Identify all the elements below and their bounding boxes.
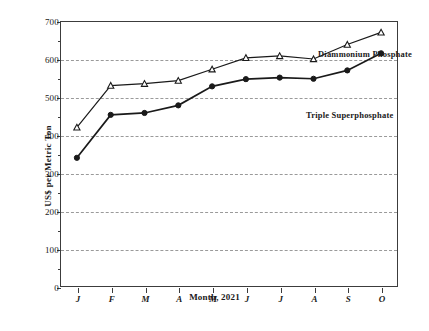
y-axis-minor-tick bbox=[58, 79, 61, 80]
series-label-diammonium-phosphate: Diammonium Phosphate bbox=[318, 49, 412, 59]
gridline bbox=[61, 212, 397, 213]
gridline bbox=[61, 60, 397, 61]
y-axis-minor-tick bbox=[58, 269, 61, 270]
y-axis-tick-label: 200 bbox=[0, 207, 59, 217]
y-axis-minor-tick bbox=[58, 117, 61, 118]
gridline bbox=[61, 136, 397, 137]
y-axis-tick-label: 300 bbox=[0, 169, 59, 179]
x-axis-title: Month, 2021 bbox=[0, 292, 429, 302]
y-axis-tick-label: 500 bbox=[0, 93, 59, 103]
y-axis-minor-tick bbox=[58, 41, 61, 42]
y-axis-tick-label: 400 bbox=[0, 131, 59, 141]
y-axis-tick-label: 600 bbox=[0, 55, 59, 65]
y-axis-tick-label: 100 bbox=[0, 245, 59, 255]
plot-area: 0100200300400500600700 JFMAMJJASO Diammo… bbox=[60, 21, 398, 287]
y-axis-minor-tick bbox=[58, 231, 61, 232]
gridline bbox=[61, 174, 397, 175]
y-axis-minor-tick bbox=[58, 155, 61, 156]
series-label-triple-superphosphate: Triple Superphosphate bbox=[306, 110, 393, 120]
y-axis-minor-tick bbox=[58, 193, 61, 194]
y-axis-tick-label: 700 bbox=[0, 17, 59, 27]
gridline bbox=[61, 250, 397, 251]
chart-figure: US$ per Metric Ton 010020030040050060070… bbox=[0, 0, 429, 331]
gridline bbox=[61, 98, 397, 99]
